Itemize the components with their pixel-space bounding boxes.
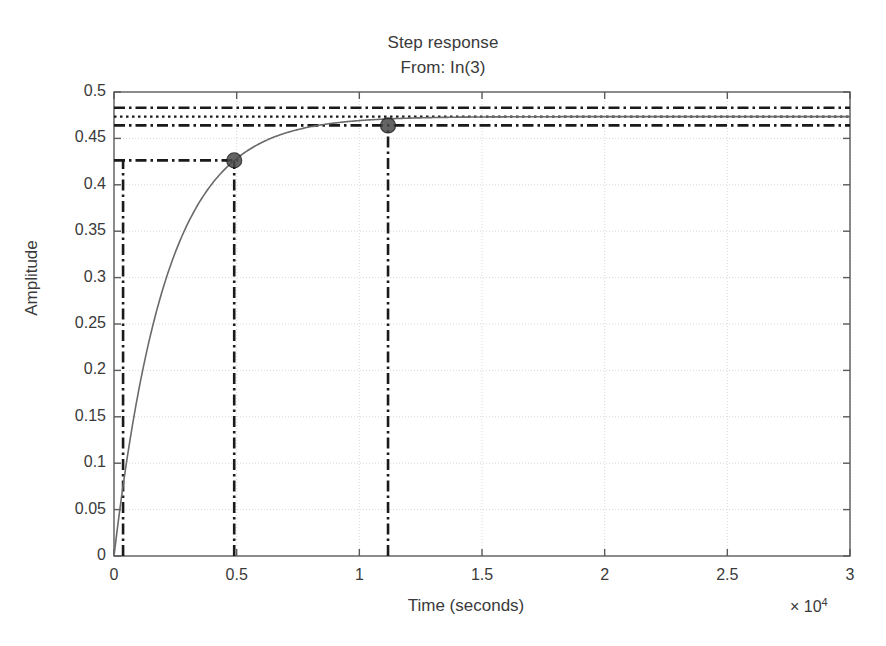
plot-canvas <box>0 0 886 646</box>
step-response-figure: Step response From: In(3) Amplitude Time… <box>0 0 886 646</box>
settling-time-marker[interactable] <box>381 118 396 133</box>
rise-time-marker[interactable] <box>227 153 242 168</box>
